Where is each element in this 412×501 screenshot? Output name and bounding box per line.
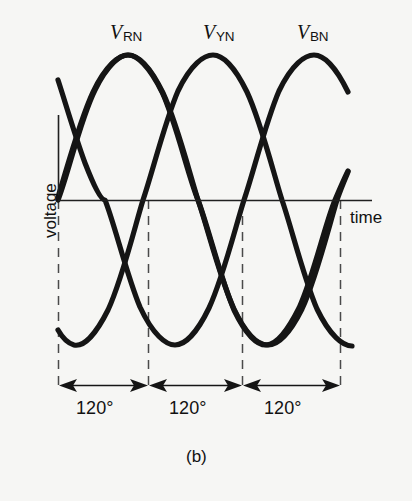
phase-label-1: 120° bbox=[76, 399, 114, 417]
phase-label-3: 120° bbox=[264, 399, 302, 417]
phase-label-2: 120° bbox=[169, 399, 207, 417]
series-label-vbn-symbol: V bbox=[297, 21, 310, 43]
series-label-vrn-symbol: V bbox=[110, 21, 123, 43]
series-label-vyn-symbol: V bbox=[203, 21, 216, 43]
series-label-vyn-subscript: YN bbox=[216, 29, 235, 44]
series-label-vyn: VYN bbox=[203, 22, 234, 42]
axis-lines bbox=[58, 115, 372, 201]
waveform-diagram bbox=[0, 0, 412, 501]
phase-dimension-arrows bbox=[59, 379, 340, 392]
series-label-vrn: VRN bbox=[110, 22, 142, 42]
series-label-vbn-subscript: BN bbox=[310, 29, 329, 44]
series-label-vbn: VBN bbox=[297, 22, 328, 42]
series-label-vrn-subscript: RN bbox=[123, 29, 142, 44]
phase-boundary-dashed-lines bbox=[59, 200, 341, 385]
figure-canvas: VRN VYN VBN voltage time 120° 120° 120° … bbox=[0, 0, 412, 501]
y-axis-label: voltage bbox=[42, 183, 59, 238]
figure-caption: (b) bbox=[186, 448, 207, 465]
x-axis-label: time bbox=[350, 209, 382, 226]
